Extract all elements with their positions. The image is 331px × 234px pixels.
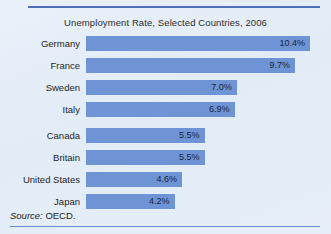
category-label-france: France bbox=[0, 58, 80, 73]
bar-track-canada: 5.5% bbox=[86, 128, 323, 143]
bar-value-canada: 5.5% bbox=[179, 128, 200, 143]
bar-track-britain: 5.5% bbox=[86, 150, 323, 165]
bar-track-sweden: 7.0% bbox=[86, 80, 323, 95]
bar-italy: 6.9% bbox=[86, 102, 235, 117]
category-label-germany: Germany bbox=[0, 36, 80, 51]
bar-value-italy: 6.9% bbox=[209, 102, 230, 117]
bar-track-japan: 4.2% bbox=[86, 194, 323, 209]
bar-row-sweden: Sweden 7.0% bbox=[0, 80, 331, 102]
bar-britain: 5.5% bbox=[86, 150, 205, 165]
bottom-divider-rule bbox=[10, 226, 320, 227]
bar-value-sweden: 7.0% bbox=[211, 80, 232, 95]
top-divider-rule bbox=[28, 6, 320, 8]
category-label-italy: Italy bbox=[0, 102, 80, 117]
bar-track-italy: 6.9% bbox=[86, 102, 323, 117]
bar-japan: 4.2% bbox=[86, 194, 175, 209]
bar-sweden: 7.0% bbox=[86, 80, 237, 95]
bar-france: 9.7% bbox=[86, 58, 295, 73]
bar-track-united-states: 4.6% bbox=[86, 172, 323, 187]
bar-row-united-states: United States 4.6% bbox=[0, 172, 331, 194]
bar-value-germany: 10.4% bbox=[279, 36, 305, 51]
bar-row-britain: Britain 5.5% bbox=[0, 150, 331, 172]
bar-canada: 5.5% bbox=[86, 128, 205, 143]
bar-germany: 10.4% bbox=[86, 36, 310, 51]
category-label-canada: Canada bbox=[0, 128, 80, 143]
source-label: Source: bbox=[10, 210, 43, 221]
bar-row-canada: Canada 5.5% bbox=[0, 128, 331, 150]
category-label-sweden: Sweden bbox=[0, 80, 80, 95]
category-label-japan: Japan bbox=[0, 194, 80, 209]
source-note: Source: OECD. bbox=[10, 210, 75, 221]
bar-track-france: 9.7% bbox=[86, 58, 323, 73]
category-label-united-states: United States bbox=[0, 172, 80, 187]
bar-row-germany: Germany 10.4% bbox=[0, 36, 331, 58]
bar-chart-plot-area: Germany 10.4% France 9.7% Sweden 7.0% bbox=[0, 36, 331, 216]
source-value: OECD. bbox=[45, 210, 75, 221]
chart-figure: Unemployment Rate, Selected Countries, 2… bbox=[0, 0, 331, 234]
bar-track-germany: 10.4% bbox=[86, 36, 323, 51]
chart-title: Unemployment Rate, Selected Countries, 2… bbox=[0, 17, 331, 28]
bar-value-france: 9.7% bbox=[270, 58, 291, 73]
category-label-britain: Britain bbox=[0, 150, 80, 165]
bar-value-japan: 4.2% bbox=[149, 194, 170, 209]
bar-united-states: 4.6% bbox=[86, 172, 182, 187]
bar-value-britain: 5.5% bbox=[179, 150, 200, 165]
bar-row-italy: Italy 6.9% bbox=[0, 102, 331, 124]
bar-value-united-states: 4.6% bbox=[156, 172, 177, 187]
bar-row-france: France 9.7% bbox=[0, 58, 331, 80]
